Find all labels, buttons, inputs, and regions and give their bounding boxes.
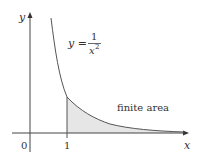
equation-exponent: 2 <box>95 43 99 51</box>
graph-diagram: y x 0 1 y = 1 x 2 finite area <box>0 0 199 164</box>
equation-lhs: y = <box>67 37 87 50</box>
x-axis-arrow-icon <box>183 131 189 136</box>
x-axis-label: x <box>184 139 191 152</box>
tick-label-1: 1 <box>64 140 70 151</box>
y-axis-label: y <box>18 11 26 24</box>
origin-label: 0 <box>21 140 27 151</box>
equation-label: y = 1 x 2 <box>67 31 101 56</box>
y-axis-arrow-icon <box>28 12 33 18</box>
finite-area-label: finite area <box>117 102 169 113</box>
equation-numerator: 1 <box>91 31 97 42</box>
